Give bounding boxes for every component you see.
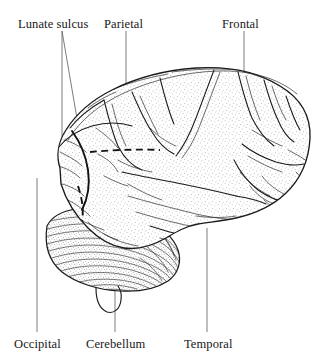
label-frontal: Frontal	[222, 17, 259, 31]
label-parietal: Parietal	[104, 17, 143, 31]
label-temporal: Temporal	[184, 337, 233, 351]
label-lunate-sulcus: Lunate sulcus	[18, 17, 88, 31]
brain-diagram: Lunate sulcus Parietal Frontal Occipital…	[0, 0, 327, 357]
label-cerebellum: Cerebellum	[86, 337, 145, 351]
label-occipital: Occipital	[14, 337, 61, 351]
